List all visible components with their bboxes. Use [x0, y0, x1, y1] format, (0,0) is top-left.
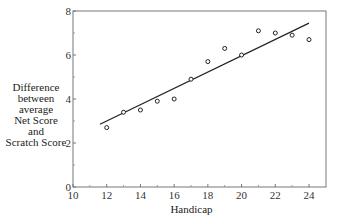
data-point [240, 53, 244, 57]
data-point [138, 108, 142, 112]
fit-line-group [100, 23, 309, 124]
data-point [155, 99, 159, 103]
y-axis-ticks: 02468 [66, 5, 77, 193]
x-axis-title: Handicap [170, 203, 213, 215]
data-points [105, 29, 311, 130]
data-point [189, 77, 193, 81]
y-tick-label: 4 [66, 93, 72, 105]
x-tick-label: 12 [101, 189, 112, 201]
data-point [223, 46, 227, 50]
y-axis-title-line: Scratch Score [6, 136, 67, 148]
data-point [206, 60, 210, 64]
scatter-chart: 02468 1012141618202224 Handicap Differen… [0, 0, 342, 224]
data-point [290, 33, 294, 37]
axes [73, 11, 326, 187]
y-tick-label: 8 [66, 5, 72, 17]
data-point [273, 31, 277, 35]
data-point [105, 126, 109, 130]
x-tick-label: 16 [169, 189, 181, 201]
x-tick-label: 20 [236, 189, 248, 201]
x-tick-label: 18 [202, 189, 214, 201]
x-tick-label: 10 [68, 189, 80, 201]
data-point [122, 110, 126, 114]
x-tick-label: 24 [304, 189, 316, 201]
x-tick-label: 22 [270, 189, 281, 201]
data-point [307, 38, 311, 42]
y-axis-title: DifferencebetweenaverageNet ScoreandScra… [6, 81, 67, 148]
data-point [256, 29, 260, 33]
fit-line [100, 23, 309, 124]
x-tick-label: 14 [135, 189, 147, 201]
plot-frame [73, 11, 326, 187]
data-point [172, 97, 176, 101]
y-tick-label: 6 [66, 49, 72, 61]
